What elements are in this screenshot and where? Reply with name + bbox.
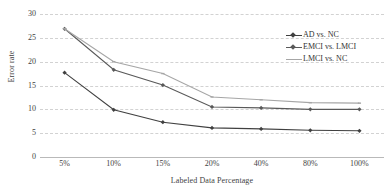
x-axis-tick-label: 5%: [59, 160, 70, 168]
chart-container: Error rate 302520151050 5%10%15%20%40%80…: [0, 0, 389, 194]
data-point-marker: [308, 128, 312, 132]
y-axis-tick-label: 25: [14, 34, 36, 42]
data-point-marker: [161, 73, 164, 74]
data-point-marker: [210, 105, 214, 109]
data-point-marker: [357, 107, 361, 111]
data-point-marker: [259, 127, 263, 131]
x-axis-tick-label: 15%: [156, 160, 171, 168]
legend-swatch-icon: [286, 55, 302, 64]
chart-legend: AD vs. NCEMCI vs. LMCILMCI vs. NC: [286, 29, 386, 65]
x-axis-tick-label: 100%: [350, 160, 369, 168]
data-point-marker: [63, 28, 66, 29]
x-axis-line: [40, 157, 384, 158]
x-axis-tick-label: 10%: [106, 160, 121, 168]
x-axis-title: Labeled Data Percentage: [40, 176, 384, 185]
x-axis-tick-label: 40%: [254, 160, 269, 168]
legend-item-label: LMCI vs. NC: [303, 55, 347, 63]
data-point-marker: [357, 129, 361, 133]
x-axis-tick-label: 20%: [205, 160, 220, 168]
data-point-marker: [259, 106, 263, 110]
y-axis-tick-label: 5: [14, 129, 36, 137]
legend-swatch-icon: [286, 31, 302, 40]
data-point-marker: [358, 102, 361, 103]
x-axis-tick-label: 80%: [303, 160, 318, 168]
series-line: [65, 73, 360, 131]
y-axis-tick-label: 30: [14, 10, 36, 18]
data-point-marker: [161, 83, 165, 87]
data-point-marker: [161, 120, 165, 124]
data-point-marker: [112, 61, 115, 62]
legend-item[interactable]: AD vs. NC: [286, 29, 386, 41]
y-axis-tick-label: 0: [14, 153, 36, 161]
legend-item-label: EMCI vs. LMCI: [303, 43, 356, 51]
legend-item-label: AD vs. NC: [303, 31, 339, 39]
data-point-marker: [210, 126, 214, 130]
data-point-marker: [210, 96, 213, 97]
y-axis-tick-label: 20: [14, 58, 36, 66]
data-point-marker: [308, 107, 312, 111]
x-axis-tick-labels: 5%10%15%20%40%80%100%: [40, 160, 384, 172]
y-axis-tick-label: 10: [14, 105, 36, 113]
data-point-marker: [309, 102, 312, 103]
y-axis-tick-label: 15: [14, 82, 36, 90]
legend-swatch-icon: [286, 43, 302, 52]
legend-item[interactable]: LMCI vs. NC: [286, 53, 386, 65]
data-point-marker: [260, 99, 263, 100]
legend-item[interactable]: EMCI vs. LMCI: [286, 41, 386, 53]
y-axis-tick-labels: 302520151050: [14, 0, 36, 194]
